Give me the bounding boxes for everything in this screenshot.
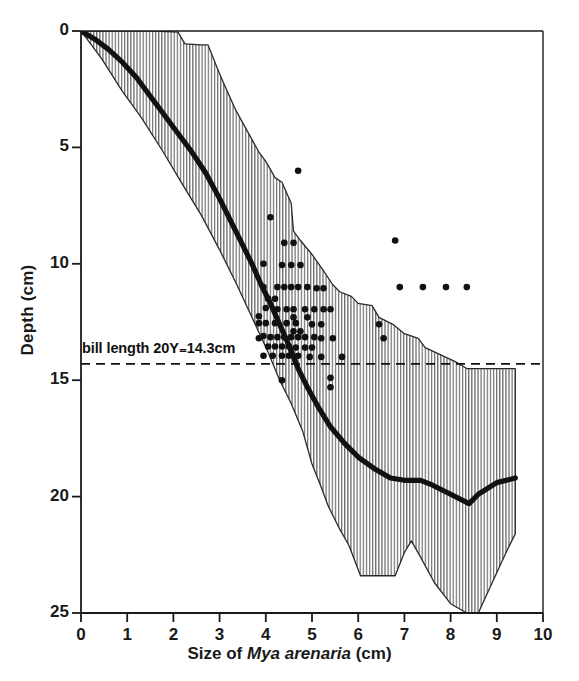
data-point [286, 343, 293, 350]
data-point [290, 328, 297, 335]
y-tick-label: 0 [19, 20, 69, 40]
data-point [313, 285, 320, 292]
data-point [260, 352, 267, 359]
data-point [420, 284, 427, 291]
data-point [286, 352, 293, 359]
data-point [327, 375, 334, 382]
data-point [318, 354, 325, 361]
x-tick-label: 6 [343, 625, 373, 645]
data-point [290, 314, 297, 321]
x-tick-label: 7 [389, 625, 419, 645]
x-axis-label-species: Mya arenaria [247, 644, 351, 663]
data-point [339, 354, 346, 361]
data-point [311, 334, 318, 341]
data-point [327, 384, 334, 391]
data-point [279, 343, 286, 350]
y-tick-label: 10 [19, 253, 69, 273]
data-point [263, 320, 270, 327]
data-point [260, 284, 267, 291]
data-point [256, 313, 263, 320]
y-tick-label: 20 [19, 486, 69, 506]
data-point [302, 334, 309, 341]
data-point [304, 314, 311, 321]
data-point [263, 305, 270, 312]
data-point [272, 295, 279, 302]
data-point [293, 320, 300, 327]
y-tick-label: 25 [19, 602, 69, 622]
data-point [295, 167, 302, 174]
data-point [302, 306, 309, 313]
data-point [267, 334, 274, 341]
data-point [396, 284, 403, 291]
data-point [293, 344, 300, 351]
data-point [295, 352, 302, 359]
data-point [281, 334, 288, 341]
data-point [283, 306, 290, 313]
data-point [309, 321, 316, 328]
bill-length-annotation: bill length 20Y₌14.3cm [82, 340, 235, 356]
data-point [281, 284, 288, 291]
data-point [297, 262, 304, 269]
figure-container: Depth (cm) Size of Mya arenaria (cm) bil… [0, 0, 579, 681]
y-tick-label: 5 [19, 136, 69, 156]
data-point [256, 320, 263, 327]
data-point [309, 344, 316, 351]
x-tick-label: 8 [436, 625, 466, 645]
data-point [318, 335, 325, 342]
x-axis-label-post: (cm) [351, 644, 392, 663]
data-point [279, 262, 286, 269]
data-point [283, 320, 290, 327]
data-point [304, 284, 311, 291]
x-tick-label: 5 [297, 625, 327, 645]
data-point [443, 284, 450, 291]
data-point [279, 377, 286, 384]
data-point [318, 321, 325, 328]
data-point [290, 240, 297, 247]
x-tick-label: 3 [205, 625, 235, 645]
data-point [320, 285, 327, 292]
data-point [288, 262, 295, 269]
data-point [306, 354, 313, 361]
data-point [288, 334, 295, 341]
x-tick-label: 9 [482, 625, 512, 645]
data-point [256, 335, 263, 342]
data-point [269, 352, 276, 359]
data-point [290, 306, 297, 313]
data-point [274, 284, 281, 291]
x-tick-label: 10 [528, 625, 558, 645]
data-point [297, 328, 304, 335]
data-point [274, 306, 281, 313]
data-point [295, 284, 302, 291]
data-point [260, 261, 267, 268]
data-point [274, 334, 281, 341]
data-point [329, 335, 336, 342]
data-point [311, 306, 318, 313]
data-point [320, 306, 327, 313]
data-point [265, 295, 272, 302]
data-point [327, 306, 334, 313]
data-point [272, 320, 279, 327]
data-point [267, 214, 274, 221]
data-point [265, 343, 272, 350]
x-axis-label: Size of Mya arenaria (cm) [0, 644, 579, 664]
data-point [272, 343, 279, 350]
data-point [288, 284, 295, 291]
data-point [302, 344, 309, 351]
data-point [279, 352, 286, 359]
x-tick-label: 4 [251, 625, 281, 645]
data-point [376, 321, 383, 328]
x-tick-label: 2 [158, 625, 188, 645]
y-tick-label: 15 [19, 369, 69, 389]
data-point [380, 335, 387, 342]
x-tick-label: 1 [112, 625, 142, 645]
data-point [281, 240, 288, 247]
data-point [295, 334, 302, 341]
data-point [392, 237, 399, 244]
data-point [463, 284, 470, 291]
x-axis-label-pre: Size of [187, 644, 247, 663]
x-tick-label: 0 [66, 625, 96, 645]
